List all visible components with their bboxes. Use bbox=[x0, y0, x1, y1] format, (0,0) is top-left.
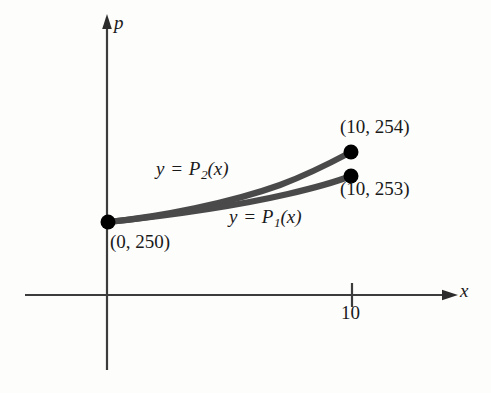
x-tick-label-10: 10 bbox=[341, 303, 360, 322]
curve-label-p1-prefix: y = P bbox=[229, 206, 274, 227]
y-axis-label: p bbox=[114, 13, 124, 32]
figure-canvas: p x 10 y = P2(x) y = P1(x) (0, 250) (10,… bbox=[0, 0, 491, 393]
curve-label-p1-subscript: 1 bbox=[274, 215, 281, 230]
point-label-origin: (0, 250) bbox=[110, 232, 170, 251]
x-axis-arrowhead bbox=[442, 290, 458, 300]
curve-label-p1: y = P1(x) bbox=[229, 207, 302, 229]
x-axis-label: x bbox=[460, 281, 468, 300]
y-axis-arrowhead bbox=[102, 14, 112, 29]
curve-label-p2-suffix: (x) bbox=[208, 158, 229, 179]
point-label-upper: (10, 254) bbox=[340, 117, 410, 136]
point-label-lower: (10, 253) bbox=[340, 179, 410, 198]
curve-label-p2-prefix: y = P bbox=[156, 158, 201, 179]
point-origin-marker bbox=[101, 215, 116, 230]
plot-svg bbox=[0, 0, 491, 393]
curve-label-p2: y = P2(x) bbox=[156, 159, 229, 181]
curve-label-p1-suffix: (x) bbox=[281, 206, 302, 227]
point-upper-marker bbox=[344, 145, 359, 160]
curve-label-p2-subscript: 2 bbox=[201, 167, 208, 182]
